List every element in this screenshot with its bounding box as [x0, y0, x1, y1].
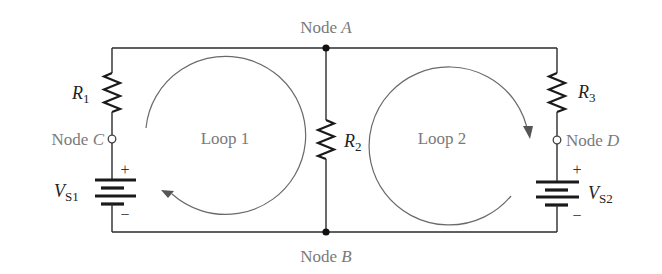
r2-label: R2	[343, 131, 362, 154]
loop-2-arrowhead-icon	[523, 126, 533, 139]
node-a-label: Node A	[300, 18, 352, 37]
vs1-minus-sign: −	[120, 206, 129, 223]
r1-label: R1	[71, 83, 90, 106]
node-d-label: Node D	[566, 131, 620, 150]
node-b-junction	[322, 228, 329, 235]
vs1-label: VS1	[54, 181, 79, 204]
node-d-terminal	[553, 136, 561, 144]
vs2-minus-sign: −	[572, 207, 581, 224]
battery-vs2	[536, 182, 579, 205]
resistor-r1	[104, 73, 120, 112]
loop-2-label: Loop 2	[418, 129, 467, 148]
vs1-plus-sign: +	[120, 161, 129, 178]
node-c-terminal	[108, 135, 116, 143]
resistor-r3	[549, 73, 565, 112]
vs2-plus-sign: +	[572, 161, 581, 178]
vs2-label: VS2	[588, 183, 613, 206]
circuit-diagram: Node A Node B Node C Node D Loop 1 Loop …	[0, 0, 662, 274]
loop-1-label: Loop 1	[201, 129, 250, 148]
node-a-junction	[322, 44, 329, 51]
r3-label: R3	[577, 82, 596, 105]
node-b-label: Node B	[300, 247, 352, 266]
battery-vs1	[95, 180, 136, 204]
resistor-r2	[318, 120, 334, 159]
node-c-label: Node C	[52, 130, 105, 149]
